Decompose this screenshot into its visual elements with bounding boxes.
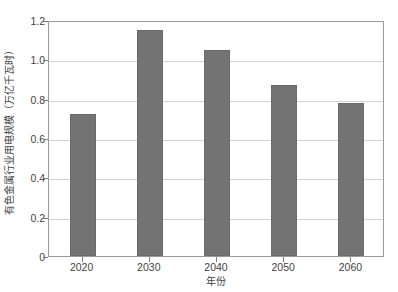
bar-series: [49, 22, 383, 256]
x-tick-label: 2060: [339, 262, 362, 273]
y-axis-tick-labels: 00.20.40.60.81.01.2: [18, 0, 45, 292]
bar-chart-figure: 有色金属行业用电规模（万亿千瓦时） 00.20.40.60.81.01.2 20…: [0, 0, 398, 292]
bar-2040: [204, 50, 230, 257]
x-tick-label: 2030: [137, 262, 160, 273]
y-axis-title: 有色金属行业用电规模（万亿千瓦时）: [0, 0, 20, 260]
x-axis-title: 年份: [48, 277, 384, 287]
y-axis-title-text: 有色金属行业用电规模（万亿千瓦时）: [5, 45, 15, 215]
bar-2060: [338, 103, 364, 256]
plot-area: [48, 21, 384, 257]
bar-2020: [70, 114, 96, 256]
bar-2030: [137, 30, 163, 256]
x-tick-label: 2040: [204, 262, 227, 273]
x-tick-label: 2020: [70, 262, 93, 273]
y-tick-mark: [43, 257, 48, 258]
x-axis-tick-labels: 20202030204020502060: [48, 262, 384, 276]
x-tick-label: 2050: [272, 262, 295, 273]
bar-2050: [271, 85, 297, 256]
